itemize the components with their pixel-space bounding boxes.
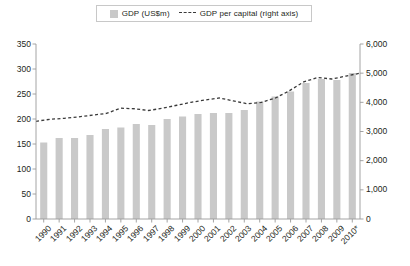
x-axis-labels: 1990199119921993199419951996199719981999…	[0, 0, 410, 266]
gdp-chart: GDP (US$m) GDP per capital (right axis) …	[0, 0, 410, 266]
